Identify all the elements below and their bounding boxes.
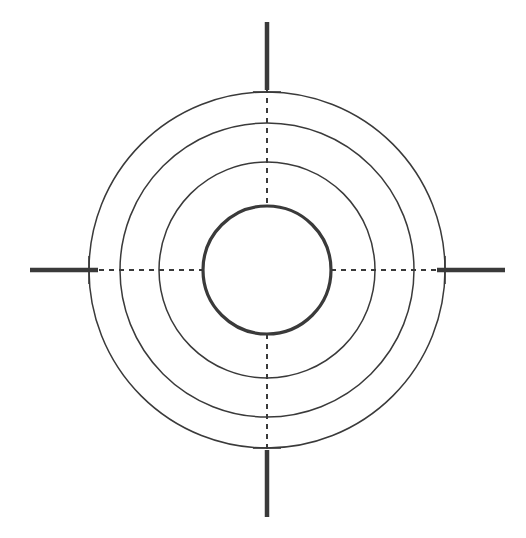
concentric-circle-target-svg bbox=[0, 0, 526, 538]
diagram-canvas bbox=[0, 0, 526, 538]
